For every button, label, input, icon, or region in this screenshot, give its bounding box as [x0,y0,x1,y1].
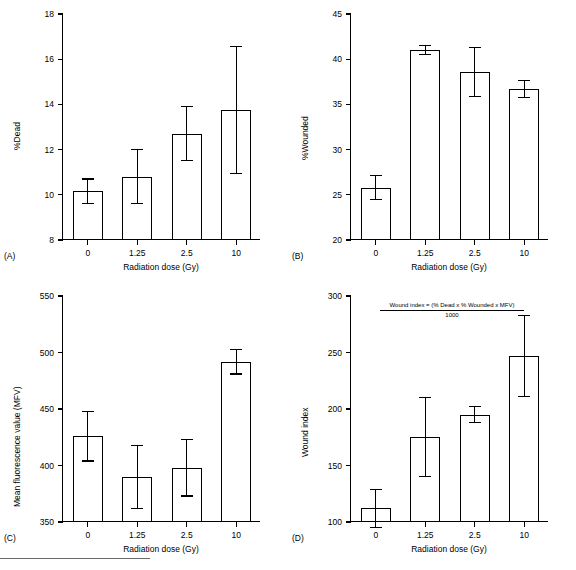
x-tick-label: 2.5 [469,248,481,258]
bar [509,89,539,240]
x-tick-label: 1.25 [129,530,146,540]
y-tick [58,149,63,150]
y-tick [346,149,351,150]
error-bar-cap [469,96,481,97]
formula-numerator: Wound index = (% Dead x % Wounded x MFV) [354,302,550,310]
x-tick-label: 10 [520,530,529,540]
error-bar-cap [469,47,481,48]
y-tick [346,465,351,466]
x-tick [524,240,525,245]
error-bar-cap [230,173,242,174]
error-bar-cap [370,527,382,528]
error-bar [137,150,138,204]
caption-divider [0,558,150,559]
panel-a: 8101214161801.252.510 %Dead Radiation do… [0,0,288,280]
x-tick-label: 0 [373,530,378,540]
y-tick-label: 20 [333,235,342,245]
bar [460,415,490,522]
error-bar-cap [181,160,193,161]
y-tick [346,194,351,195]
panel-c-letter: (C) [4,533,16,543]
error-bar-cap [370,175,382,176]
x-tick-label: 2.5 [469,530,481,540]
error-bar [186,107,187,161]
x-tick [137,522,138,527]
error-bar-cap [469,406,481,407]
wound-index-formula: Wound index = (% Dead x % Wounded x MFV)… [354,302,550,319]
panel-b-letter: (B) [292,251,303,261]
x-tick-label: 10 [520,248,529,258]
error-bar-cap [518,80,530,81]
y-tick [58,104,63,105]
error-bar-cap [419,397,431,398]
y-tick [58,408,63,409]
panel-a-y-axis-title: %Dead [12,122,22,150]
y-tick-label: 400 [40,461,54,471]
bar [410,50,440,240]
x-tick [186,240,187,245]
y-tick [58,352,63,353]
y-tick-label: 16 [45,54,54,64]
y-tick [346,239,351,240]
x-tick [236,240,237,245]
error-bar-cap [131,445,143,446]
y-tick-label: 200 [328,404,342,414]
y-tick [58,295,63,296]
y-tick-label: 18 [45,9,54,19]
error-bar [137,445,138,508]
error-bar [425,398,426,477]
x-tick-label: 0 [85,530,90,540]
error-bar-cap [419,476,431,477]
panel-c-x-axis-title: Radiation dose (Gy) [123,544,199,554]
error-bar [524,81,525,97]
x-tick [474,522,475,527]
y-tick-label: 12 [45,145,54,155]
error-bar-cap [230,349,242,350]
error-bar [186,440,187,497]
panel-d-x-axis-title: Radiation dose (Gy) [411,544,487,554]
y-tick-label: 350 [40,517,54,527]
error-bar-cap [82,460,94,461]
y-tick-label: 35 [333,99,342,109]
y-tick [58,59,63,60]
x-tick [425,522,426,527]
y-tick [346,295,351,296]
panel-a-x-axis-title: Radiation dose (Gy) [123,262,199,272]
error-bar [474,47,475,96]
panel-a-letter: (A) [4,251,15,261]
bar [221,362,251,522]
y-tick-label: 30 [333,145,342,155]
error-bar-cap [419,45,431,46]
error-bar-cap [469,422,481,423]
y-tick [346,352,351,353]
error-bar [524,315,525,396]
panel-d-y-axis-title: Wound index [300,408,310,457]
x-tick-label: 0 [85,248,90,258]
y-tick [58,521,63,522]
panel-b: 20253035404501.252.510 %Wounded Radiatio… [288,0,576,280]
bar [460,72,490,240]
error-bar-cap [518,396,530,397]
y-tick-label: 8 [49,235,54,245]
error-bar-cap [131,149,143,150]
y-tick [346,59,351,60]
error-bar-cap [82,203,94,204]
error-bar-cap [230,373,242,374]
error-bar [474,407,475,423]
y-tick [58,465,63,466]
y-tick [58,239,63,240]
y-tick-label: 14 [45,99,54,109]
y-tick-label: 550 [40,291,54,301]
x-tick [87,240,88,245]
x-tick-label: 2.5 [181,248,193,258]
x-tick [425,240,426,245]
panel-d-plot-area: 10015020025030001.252.510 [350,296,548,522]
y-tick-label: 450 [40,404,54,414]
y-tick-label: 10 [45,190,54,200]
error-bar [236,349,237,374]
panel-c-plot-area: 35040045050055001.252.510 [62,296,260,522]
x-tick [87,522,88,527]
x-tick [375,522,376,527]
y-tick-label: 25 [333,190,342,200]
y-tick [346,408,351,409]
